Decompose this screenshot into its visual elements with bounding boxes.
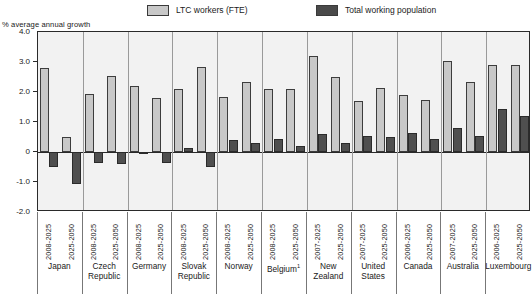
bar-total-working-population xyxy=(341,143,350,152)
y-axis-tick-label: 2.0 xyxy=(4,87,30,96)
x-axis-country-label: Slovak Republic xyxy=(171,262,216,281)
bar-ltc-workers xyxy=(376,88,385,153)
bar-total-working-population xyxy=(94,152,103,163)
group-separator xyxy=(486,32,487,210)
x-axis-group-separator xyxy=(485,212,486,294)
bar-ltc-workers xyxy=(197,67,206,153)
bar-ltc-workers xyxy=(466,82,475,153)
bar-ltc-workers xyxy=(219,97,228,153)
x-axis-period-label: 2025-2050 xyxy=(291,214,300,260)
x-axis-group-separator xyxy=(216,212,217,294)
x-axis-period-label: 2008-2025 xyxy=(134,214,143,260)
bar-ltc-workers xyxy=(174,89,183,152)
bar-total-working-population xyxy=(453,128,462,152)
chart-page: LTC workers (FTE) Total working populati… xyxy=(0,0,532,295)
x-axis-period-label: 2008-2025 xyxy=(268,214,277,260)
y-axis-tick-mark xyxy=(33,181,37,182)
bar-total-working-population xyxy=(229,140,238,152)
zero-baseline xyxy=(38,152,529,153)
x-axis-group-separator xyxy=(171,212,172,294)
x-axis-country-label: New Zealand xyxy=(306,262,351,281)
x-axis-period-label: 2008-2025 xyxy=(89,214,98,260)
bar-ltc-workers xyxy=(130,86,139,152)
x-axis-period-label: 2008-2025 xyxy=(44,214,53,260)
bar-ltc-workers xyxy=(354,101,363,152)
bar-total-working-population xyxy=(49,152,58,167)
bar-ltc-workers xyxy=(85,94,94,153)
bar-ltc-workers xyxy=(443,61,452,153)
y-axis-tick-mark xyxy=(33,151,37,152)
bar-total-working-population xyxy=(162,152,171,163)
bar-total-working-population xyxy=(206,152,215,167)
y-axis-tick-mark xyxy=(33,91,37,92)
bar-total-working-population xyxy=(72,152,81,184)
x-axis-period-label: 2025-2050 xyxy=(380,214,389,260)
bar-ltc-workers xyxy=(107,76,116,153)
y-axis-tick-label: 0 xyxy=(4,147,30,156)
x-axis-period-label: 2025-2050 xyxy=(515,214,524,260)
x-axis-period-label: 2007-2025 xyxy=(313,214,322,260)
bar-ltc-workers xyxy=(331,77,340,152)
x-axis-country-label: Germany xyxy=(127,262,172,272)
x-axis-group-separator xyxy=(306,212,307,294)
x-axis-labels: 2008-20252025-2050Japan2008-20252025-205… xyxy=(37,212,530,294)
x-axis-country-label: Japan xyxy=(37,262,82,272)
x-axis-period-label: 2007-2025 xyxy=(448,214,457,260)
bar-total-working-population xyxy=(475,136,484,153)
bar-ltc-workers xyxy=(511,65,520,152)
bar-total-working-population xyxy=(430,139,439,153)
y-axis-tick-label: -2.0 xyxy=(4,207,30,216)
x-axis-group-separator xyxy=(440,212,441,294)
bar-total-working-population xyxy=(408,133,417,153)
x-axis-period-label: 2006-2025 xyxy=(403,214,412,260)
y-axis-tick-label: 3.0 xyxy=(4,57,30,66)
footnote-marker: 1 xyxy=(297,263,300,269)
legend-label-total-working-population: Total working population xyxy=(345,5,436,15)
x-axis-period-label: 2025-2050 xyxy=(111,214,120,260)
bar-total-working-population xyxy=(363,136,372,153)
bar-total-working-population xyxy=(274,139,283,153)
legend-item-ltc-workers: LTC workers (FTE) xyxy=(147,5,248,16)
bar-ltc-workers xyxy=(62,137,71,152)
x-axis-period-label: 2006-2025 xyxy=(492,214,501,260)
x-axis-period-label: 2025-2050 xyxy=(156,214,165,260)
x-axis-country-label: Australia xyxy=(440,262,485,272)
bar-ltc-workers xyxy=(399,95,408,152)
x-axis-country-label: Norway xyxy=(216,262,261,272)
x-axis-period-label: 2007-2025 xyxy=(358,214,367,260)
plot-area xyxy=(37,31,530,211)
y-axis-tick-label: 1.0 xyxy=(4,117,30,126)
x-axis-group-separator xyxy=(261,212,262,294)
x-axis-country-label: Belgium1 xyxy=(261,262,306,274)
x-axis-period-label: 2025-2050 xyxy=(425,214,434,260)
legend-swatch-total-working-population xyxy=(316,5,338,16)
group-separator xyxy=(441,32,442,210)
bar-ltc-workers xyxy=(286,89,295,152)
x-axis-country-label: Luxembourg xyxy=(485,262,530,272)
bar-total-working-population xyxy=(251,143,260,152)
x-axis-country-label: United States xyxy=(351,262,396,281)
x-axis-period-label: 2025-2050 xyxy=(67,214,76,260)
bar-total-working-population xyxy=(318,134,327,152)
x-axis-group-separator xyxy=(82,212,83,294)
bar-ltc-workers xyxy=(242,82,251,153)
x-axis-period-label: 2025-2050 xyxy=(470,214,479,260)
bar-total-working-population xyxy=(498,109,507,153)
x-axis-period-label: 2008-2025 xyxy=(223,214,232,260)
bar-total-working-population xyxy=(139,152,148,154)
x-axis-period-label: 2008-2025 xyxy=(179,214,188,260)
y-axis-tick-label: 4.0 xyxy=(4,27,30,36)
y-axis-tick-label: -1.0 xyxy=(4,177,30,186)
bar-total-working-population xyxy=(117,152,126,164)
bar-ltc-workers xyxy=(421,100,430,153)
legend-item-total-working-population: Total working population xyxy=(316,5,436,16)
group-separator xyxy=(307,32,308,210)
y-axis-tick-mark xyxy=(33,61,37,62)
x-axis-period-label: 2025-2050 xyxy=(336,214,345,260)
group-separator xyxy=(172,32,173,210)
bar-total-working-population xyxy=(184,148,193,153)
x-axis-group-separator xyxy=(127,212,128,294)
x-axis-country-label: Czech Republic xyxy=(82,262,127,281)
bar-total-working-population xyxy=(386,137,395,152)
x-axis-group-separator xyxy=(396,212,397,294)
